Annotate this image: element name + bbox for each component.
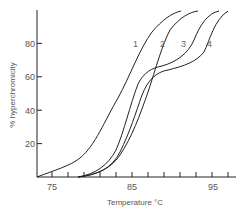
curve-4 [78,11,228,177]
y-tick-60: 60 [25,72,35,82]
curve-2 [78,11,198,177]
y-ticks [37,43,42,143]
y-axis-title: % hyperchromicity [8,62,17,127]
y-tick-40: 40 [25,106,35,116]
x-tick-95: 95 [208,182,218,192]
curve-label-4: 4 [207,39,212,49]
curve-1 [37,11,181,177]
x-axis-title: Temperature °C [107,198,163,207]
x-tick-75: 75 [47,182,57,192]
curve-3 [78,11,219,177]
y-tick-80: 80 [25,39,35,49]
curve-label-3: 3 [181,39,186,49]
y-tick-20: 20 [25,139,35,149]
x-ticks [52,172,228,177]
melting-curve-chart: 20 40 60 80 75 85 95 Temperature °C % hy… [0,0,239,211]
curve-label-1: 1 [133,39,138,49]
curve-label-2: 2 [160,39,165,49]
chart-container: 20 40 60 80 75 85 95 Temperature °C % hy… [0,0,239,211]
x-tick-85: 85 [127,182,137,192]
